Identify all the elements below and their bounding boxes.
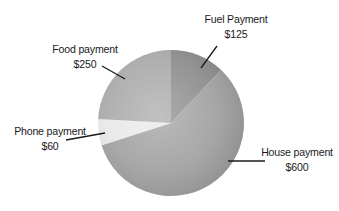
pie-chart xyxy=(0,0,339,211)
label-fuel-value: $125 xyxy=(199,27,273,42)
label-fuel-name: Fuel Payment xyxy=(199,12,273,27)
label-phone: Phone payment $60 xyxy=(9,124,92,154)
label-house-value: $600 xyxy=(256,160,339,175)
label-food: Food payment $250 xyxy=(44,42,127,72)
label-house: House payment $600 xyxy=(256,145,339,175)
label-fuel: Fuel Payment $125 xyxy=(199,12,273,42)
label-food-name: Food payment xyxy=(44,42,127,57)
label-food-value: $250 xyxy=(44,57,127,72)
label-phone-name: Phone payment xyxy=(9,124,92,139)
label-house-name: House payment xyxy=(256,145,339,160)
label-phone-value: $60 xyxy=(9,139,92,154)
